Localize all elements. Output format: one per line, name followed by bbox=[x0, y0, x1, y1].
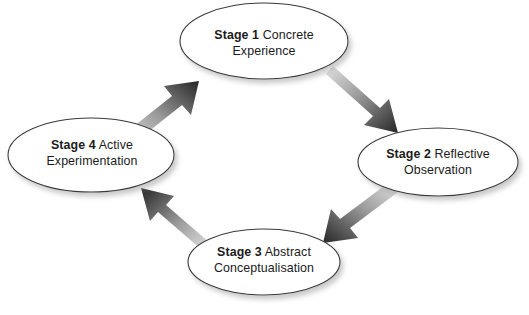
node-stage4[interactable] bbox=[8, 118, 174, 192]
arrow-stage1-to-stage2-icon bbox=[326, 66, 398, 133]
cycle-canvas bbox=[0, 0, 529, 315]
node-stage1[interactable] bbox=[180, 3, 348, 79]
node-stage4-ellipse[interactable] bbox=[8, 118, 174, 192]
node-stage3-ellipse[interactable] bbox=[188, 229, 340, 295]
arrow-stage3-to-stage4-icon bbox=[141, 188, 210, 250]
node-stage2[interactable] bbox=[358, 128, 518, 196]
arrow-stage2-to-stage3-icon bbox=[323, 183, 398, 243]
kolb-cycle-diagram: Stage 1 Concrete Experience Stage 2 Refl… bbox=[0, 0, 529, 315]
caption-strip bbox=[0, 306, 529, 315]
node-stage1-ellipse[interactable] bbox=[180, 3, 348, 79]
node-stage2-ellipse[interactable] bbox=[358, 128, 518, 196]
node-stage3[interactable] bbox=[188, 229, 340, 295]
